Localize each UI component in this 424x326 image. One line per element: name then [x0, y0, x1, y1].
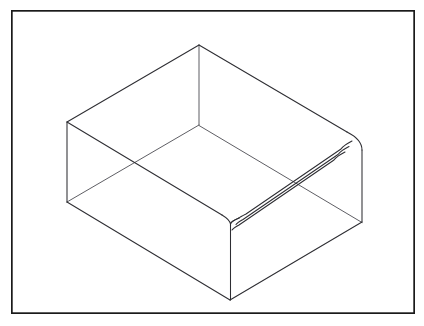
isometric-box-drawing — [0, 0, 424, 326]
drawing-canvas — [0, 0, 424, 326]
